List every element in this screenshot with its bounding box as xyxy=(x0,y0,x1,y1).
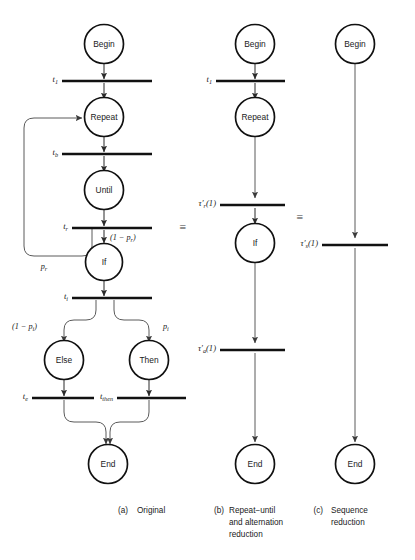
place-label-b-end: End xyxy=(248,459,263,469)
places-original: Begin Repeat Until If Else Then End xyxy=(45,25,169,484)
arc-label-loop-prob: pr xyxy=(40,262,48,272)
arc-label-else-prob: (1 − pi) xyxy=(12,322,37,332)
column-original: t1 tb tr ti te tthen pr (1 − p xyxy=(12,25,186,484)
place-label-else: Else xyxy=(56,355,73,365)
transition-label-b-t1: t1 xyxy=(207,74,212,85)
place-label-b-begin: Begin xyxy=(244,39,266,49)
transition-label-tr: tr xyxy=(63,221,68,232)
caption-text-a-line-1: Original xyxy=(137,506,165,515)
arc-te-end xyxy=(64,400,106,444)
transition-label-te: te xyxy=(23,391,28,402)
place-label-if: If xyxy=(102,257,107,267)
captions: (a) Original (b) Repeat−until and altern… xyxy=(118,506,368,539)
place-label-b-repeat: Repeat xyxy=(241,112,269,122)
place-label-begin: Begin xyxy=(93,39,115,49)
transition-label-b-tau-a: τ′a(1) xyxy=(198,343,216,354)
transition-label-ti: ti xyxy=(64,291,68,302)
transition-label-tb: tb xyxy=(53,147,58,158)
arc-label-exit-prob: (1 − pr) xyxy=(110,233,136,243)
caption-text-b-line-1: Repeat−until xyxy=(229,506,275,515)
arc-tthen-end xyxy=(110,400,149,444)
petri-net-reduction-figure: t1 tb tr ti te tthen pr (1 − p xyxy=(0,0,415,560)
caption-tag-b: (b) xyxy=(214,506,224,515)
place-label-then: Then xyxy=(139,355,158,365)
caption-text-b-line-2: and alternation xyxy=(229,518,284,527)
column-repeat-until-alternation: t1 τ′r(1) τ′a(1) Begin Repeat If End xyxy=(198,25,285,484)
place-label-c-begin: Begin xyxy=(344,39,366,49)
transition-labels-reduction-c: τ′s(1) xyxy=(301,238,319,249)
equivalence-symbol-b-c: ≡ xyxy=(297,210,304,224)
caption-text-c-line-1: Sequence xyxy=(331,506,368,515)
place-label-end: End xyxy=(101,459,116,469)
caption-tag-c: (c) xyxy=(313,506,323,515)
transition-labels-reduction-b: t1 τ′r(1) τ′a(1) xyxy=(198,74,216,354)
place-label-c-end: End xyxy=(348,459,363,469)
caption-text-c-line-2: reduction xyxy=(331,518,365,527)
arc-label-then-prob: pi xyxy=(162,322,169,332)
place-label-b-if: If xyxy=(253,238,258,248)
arc-ti-then xyxy=(114,300,149,342)
arc-loop-tr-repeat xyxy=(24,118,92,256)
caption-text-b-line-3: reduction xyxy=(229,530,263,539)
caption-tag-a: (a) xyxy=(118,506,128,515)
column-sequence: τ′s(1) Begin End xyxy=(301,25,388,484)
transition-label-t1: t1 xyxy=(53,74,58,85)
place-label-repeat: Repeat xyxy=(90,112,118,122)
equivalence-symbol-a-b: ≡ xyxy=(180,220,187,234)
transition-label-b-tau-r: τ′r(1) xyxy=(199,198,217,209)
place-label-until: Until xyxy=(96,185,113,195)
transition-label-tthen: tthen xyxy=(100,391,113,402)
arc-labels-original: pr (1 − pr) (1 − pi) pi xyxy=(12,233,169,332)
transition-label-c-tau-s: τ′s(1) xyxy=(301,238,319,249)
arc-ti-else xyxy=(64,300,96,342)
